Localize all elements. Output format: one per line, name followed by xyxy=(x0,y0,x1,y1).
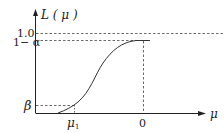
y-axis xyxy=(33,9,38,113)
y-tick-1-minus-alpha: 1− α xyxy=(13,36,41,49)
y-axis-arrow-icon xyxy=(33,9,38,16)
x-tick-zero: 0 xyxy=(139,117,146,130)
x-tick-mu1-label: μ xyxy=(67,116,75,130)
oc-curve xyxy=(58,41,150,114)
oc-curve-diagram: L ( μ ) 1.0 1− α β μ 1 0 μ xyxy=(0,0,224,133)
x-tick-mu1: μ 1 xyxy=(67,116,79,131)
x-axis-arrow-icon xyxy=(198,111,206,116)
y-axis-label: L ( μ ) xyxy=(40,8,78,22)
x-tick-mu1-subscript: 1 xyxy=(75,123,79,131)
y-tick-beta: β xyxy=(23,98,32,113)
x-axis-label: μ xyxy=(210,107,218,121)
